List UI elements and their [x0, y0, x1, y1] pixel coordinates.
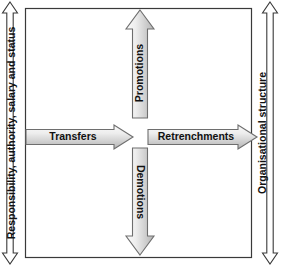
demotions-label: Demotions	[135, 165, 147, 219]
transfers-label: Transfers	[49, 130, 96, 142]
retrenchments-label: Retrenchments	[158, 130, 235, 142]
promotions-label: Promotions	[133, 44, 145, 102]
right-axis-label: Organisational structure	[256, 72, 268, 194]
left-axis-label: Responsibility, authority, salary and st…	[5, 27, 17, 240]
organisational-structure-diagram: Responsibility, authority, salary and st…	[0, 0, 281, 267]
diagram-root: Responsibility, authority, salary and st…	[0, 0, 281, 267]
